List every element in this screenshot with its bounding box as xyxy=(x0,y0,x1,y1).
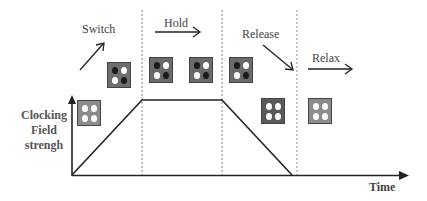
electron-dot-icon xyxy=(243,72,249,79)
empty-dot-icon xyxy=(163,62,169,69)
relaxed-cell-initial xyxy=(77,100,101,126)
x-axis-arrow-icon xyxy=(399,171,409,180)
switch-cell xyxy=(107,62,131,88)
release-arrow xyxy=(263,45,292,69)
clocking-diagram xyxy=(0,0,427,201)
electron-dot-icon xyxy=(154,62,160,69)
empty-dot-icon xyxy=(82,115,88,122)
electron-dot-icon xyxy=(194,62,200,69)
electron-dot-icon xyxy=(163,72,169,79)
electron-dot-icon xyxy=(234,62,240,69)
y-axis-label: Clocking Field strengh xyxy=(18,108,70,153)
empty-dot-icon xyxy=(234,72,240,79)
electron-dot-icon xyxy=(203,72,209,79)
release-cell xyxy=(261,98,285,124)
electron-dot-icon xyxy=(121,77,127,84)
empty-dot-icon xyxy=(121,67,127,74)
empty-dot-icon xyxy=(154,72,160,79)
y-axis-label-line-1: Clocking xyxy=(18,108,70,123)
y-axis-label-line-3: strengh xyxy=(18,138,70,153)
empty-dot-icon xyxy=(275,103,281,110)
switch-arrow xyxy=(80,44,103,70)
electron-dot-icon xyxy=(112,67,118,74)
x-axis-label: Time xyxy=(369,180,395,195)
hold-cell-3 xyxy=(229,57,253,83)
empty-dot-icon xyxy=(266,113,272,120)
hold-cell-2 xyxy=(189,57,213,83)
empty-dot-icon xyxy=(203,62,209,69)
hold-label: Hold xyxy=(164,16,188,31)
empty-dot-icon xyxy=(275,113,281,120)
y-axis-arrow-icon xyxy=(68,95,76,104)
empty-dot-icon xyxy=(91,105,97,112)
hold-cell-1 xyxy=(149,57,173,83)
empty-dot-icon xyxy=(313,113,319,120)
empty-dot-icon xyxy=(82,105,88,112)
empty-dot-icon xyxy=(313,103,319,110)
y-axis-label-line-2: Field xyxy=(18,123,70,138)
switch-label: Switch xyxy=(82,22,115,37)
empty-dot-icon xyxy=(91,115,97,122)
empty-dot-icon xyxy=(322,103,328,110)
empty-dot-icon xyxy=(194,72,200,79)
release-label: Release xyxy=(242,27,279,42)
field-strength-curve xyxy=(72,100,292,175)
empty-dot-icon xyxy=(322,113,328,120)
empty-dot-icon xyxy=(243,62,249,69)
relax-label: Relax xyxy=(312,51,340,66)
empty-dot-icon xyxy=(112,77,118,84)
relax-cell xyxy=(308,98,332,124)
empty-dot-icon xyxy=(266,103,272,110)
